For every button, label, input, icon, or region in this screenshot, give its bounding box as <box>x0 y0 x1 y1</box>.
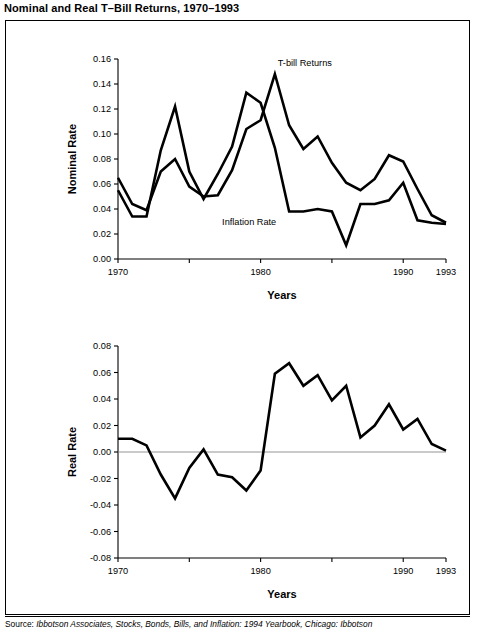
x-tick-label: 1990 <box>393 566 413 576</box>
y-tick-label: -0.02 <box>90 474 111 484</box>
series-line-real-rate <box>118 363 446 498</box>
series-line-inflation-rate <box>118 93 446 246</box>
y-tick-label: 0.12 <box>93 104 111 114</box>
charts-svg: 0.000.020.040.060.080.100.120.140.161970… <box>6 21 468 613</box>
y-tick-label: 0.02 <box>93 229 111 239</box>
figure-title: Nominal and Real T–Bill Returns, 1970–19… <box>4 2 239 14</box>
y-tick-label: 0.06 <box>93 179 111 189</box>
y-axis-title: Nominal Rate <box>66 124 78 194</box>
y-tick-label: -0.06 <box>90 527 111 537</box>
y-tick-label: 0.08 <box>93 154 111 164</box>
figure-root: Nominal and Real T–Bill Returns, 1970–19… <box>0 0 481 632</box>
x-axis-title: Years <box>267 588 296 600</box>
y-tick-label: 0.14 <box>93 79 111 89</box>
figure-frame: 0.000.020.040.060.080.100.120.140.161970… <box>5 20 470 615</box>
y-tick-label: 0.02 <box>93 421 111 431</box>
chart-nominal-rate: 0.000.020.040.060.080.100.120.140.161970… <box>66 54 456 301</box>
y-tick-label: -0.04 <box>90 500 111 510</box>
x-tick-label: 1970 <box>108 267 128 277</box>
series-line-t-bill-returns <box>118 74 446 223</box>
y-tick-label: 0.04 <box>93 204 111 214</box>
caption-source-text: Ibbotson Associates, Stocks, Bonds, Bill… <box>34 619 372 629</box>
x-tick-label: 1980 <box>250 267 270 277</box>
y-tick-label: 0.10 <box>93 129 111 139</box>
annotation-inflation-rate: Inflation Rate <box>222 217 276 227</box>
y-axis-title: Real Rate <box>66 427 78 477</box>
x-tick-label: 1990 <box>393 267 413 277</box>
annotation-tbill-returns: T-bill Returns <box>278 58 333 68</box>
figure-caption: Source: Ibbotson Associates, Stocks, Bon… <box>5 616 470 632</box>
x-axis-title: Years <box>267 289 296 301</box>
x-tick-label: 1993 <box>436 566 456 576</box>
y-tick-label: 0.08 <box>93 341 111 351</box>
y-tick-label: 0.00 <box>93 254 111 264</box>
y-tick-label: -0.08 <box>90 553 111 563</box>
x-tick-label: 1993 <box>436 267 456 277</box>
x-tick-label: 1970 <box>108 566 128 576</box>
y-tick-label: 0.16 <box>93 54 111 64</box>
y-tick-label: 0.04 <box>93 394 111 404</box>
y-tick-label: 0.00 <box>93 447 111 457</box>
caption-source-label: Source: <box>5 619 34 629</box>
y-tick-label: 0.06 <box>93 368 111 378</box>
x-tick-label: 1980 <box>250 566 270 576</box>
chart-real-rate: -0.08-0.06-0.04-0.020.000.020.040.060.08… <box>66 341 456 600</box>
